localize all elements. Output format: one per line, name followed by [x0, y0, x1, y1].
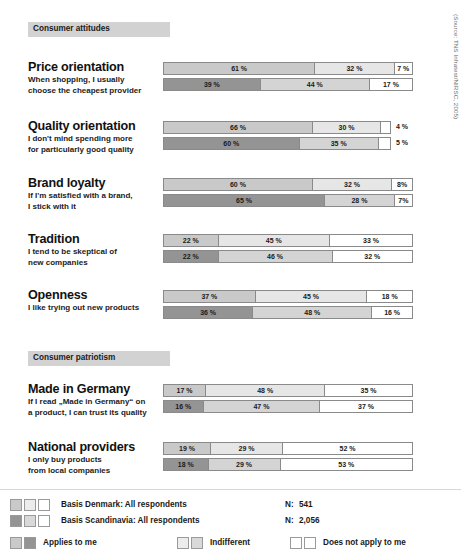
chart-item-subtitle-line: If I'm satisfied with a brand,: [28, 191, 158, 202]
chart-item-title: Price orientation: [28, 60, 124, 74]
bar-segment-label: 60 %: [230, 181, 246, 188]
bar-segment-label: 18 %: [178, 461, 194, 468]
bar-segment: 37 %: [320, 401, 412, 412]
chart-item-subtitle-line: If I read „Made in Germany“ on: [28, 397, 158, 408]
bar-segment-label: 46 %: [267, 253, 283, 260]
bar-segment-label: 65 %: [236, 197, 252, 204]
chart-item-bars: 19 %29 %52 %18 %29 %53 %: [163, 442, 413, 474]
swatch-indifferent-scandinavia-icon: [191, 537, 203, 549]
stacked-bar: 17 %48 %35 %: [163, 384, 413, 397]
chart-bar-row: 17 %48 %35 %: [163, 384, 413, 397]
stacked-bar: 19 %29 %52 %: [163, 442, 413, 455]
bar-segment-label: 30 %: [339, 124, 355, 131]
bar-segment: 29 %: [209, 459, 281, 470]
stacked-bar: 61 %32 %7 %: [163, 62, 413, 75]
bar-segment-label: 48 %: [304, 309, 320, 316]
bar-segment: 45 %: [256, 291, 368, 302]
stacked-bar: 66 %30 %: [163, 121, 391, 134]
chart-bar-row: 19 %29 %52 %: [163, 442, 413, 455]
bar-segment-label: 32 %: [364, 253, 380, 260]
stacked-bar: 18 %29 %53 %: [163, 458, 413, 471]
section-band-label: Consumer attitudes: [33, 24, 110, 33]
stacked-bar: 37 %45 %18 %: [163, 290, 413, 303]
legend-basis-row-denmark: Basis Denmark: All respondents: [10, 498, 187, 511]
n-label: N:: [285, 500, 299, 509]
bar-segment-label: 53 %: [338, 461, 354, 468]
n-denmark: N:541: [285, 500, 313, 509]
bar-segment-label: 22 %: [183, 237, 199, 244]
bar-segment: 28 %: [325, 195, 394, 206]
legend-key-does-not-apply: Does not apply to me: [290, 536, 406, 549]
bar-segment: 32 %: [315, 63, 394, 74]
swatch-not-apply-icon: [38, 515, 50, 527]
chart-item-subtitle-line: I stick with it: [28, 202, 158, 213]
bar-segment-label: 44 %: [307, 81, 323, 88]
chart-item-title: Quality orientation: [28, 119, 135, 133]
bar-segment: 8%: [392, 179, 412, 190]
swatch-not-apply-denmark-icon: [290, 537, 302, 549]
chart-figure: (Source: TNS Infratest/NIRSC, 2005) Cons…: [0, 0, 461, 560]
bar-segment: 7%: [395, 195, 412, 206]
bar-segment: 22 %: [164, 251, 219, 262]
swatch-indifferent-icon: [24, 499, 36, 511]
bar-segment: 16 %: [372, 307, 412, 318]
bar-segment-label: 19 %: [179, 445, 195, 452]
swatch-not-apply-scandinavia-icon: [304, 537, 316, 549]
bar-segment: 7 %: [395, 63, 412, 74]
chart-item-subtitle-line: new companies: [28, 258, 158, 269]
bar-segment-label: 28 %: [351, 197, 367, 204]
bar-segment: 65 %: [164, 195, 325, 206]
bar-segment: 22 %: [164, 235, 219, 246]
bar-segment: 46 %: [219, 251, 333, 262]
bar-segment-label: 47 %: [253, 403, 269, 410]
chart-item-subtitle-line: I tend to be skeptical of: [28, 247, 158, 258]
bar-segment: 36 %: [164, 307, 253, 318]
chart-item-subtitle-line: for particularly good quality: [28, 145, 158, 156]
bar-segment-label: 37 %: [201, 293, 217, 300]
bar-segment-label: 29 %: [236, 461, 252, 468]
legend-basis-row-scandinavia: Basis Scandinavia: All respondents: [10, 514, 199, 527]
legend-key-indifferent: Indifferent: [177, 536, 250, 549]
bar-segment-label: 61 %: [231, 65, 247, 72]
chart-item-subtitle-line: When shopping, I usually: [28, 75, 158, 86]
section-band-consumer-attitudes: Consumer attitudes: [28, 22, 170, 37]
legend-basis-label: Basis Denmark: All respondents: [61, 500, 187, 509]
chart-item-title: Tradition: [28, 232, 79, 246]
chart-bar-row: 60 %35 %5 %: [163, 137, 413, 150]
bar-segment-label: 39 %: [204, 81, 220, 88]
bar-segment: 16 %: [164, 401, 204, 412]
chart-item-bars: 66 %30 %4 %60 %35 %5 %: [163, 121, 413, 153]
chart-item-subtitle-line: I don't mind spending more: [28, 134, 158, 145]
chart-item-bars: 60 %32 %8%65 %28 %7%: [163, 178, 413, 210]
n-value: 541: [299, 500, 313, 509]
chart-bar-row: 36 %48 %16 %: [163, 306, 413, 319]
chart-bar-row: 65 %28 %7%: [163, 194, 413, 207]
bar-segment-label: 66 %: [230, 124, 246, 131]
chart-item-subtitle: If I'm satisfied with a brand,I stick wi…: [28, 191, 158, 212]
chart-item-subtitle: If I read „Made in Germany“ ona product,…: [28, 397, 158, 418]
bar-segment-label: 35 %: [331, 140, 347, 147]
chart-bar-row: 18 %29 %53 %: [163, 458, 413, 471]
bar-segment-label: 17 %: [177, 387, 193, 394]
chart-bar-row: 66 %30 %4 %: [163, 121, 413, 134]
chart-item-bars: 61 %32 %7 %39 %44 %17 %: [163, 62, 413, 94]
bar-segment-label: 17 %: [383, 81, 399, 88]
swatch-indifferent-icon: [24, 515, 36, 527]
bar-segment-label: 36 %: [200, 309, 216, 316]
bar-segment: 30 %: [313, 122, 381, 133]
bar-segment: 66 %: [164, 122, 313, 133]
n-label: N:: [285, 516, 299, 525]
chart-item-subtitle: I only buy productsfrom local companies: [28, 455, 158, 476]
chart-bar-row: 39 %44 %17 %: [163, 78, 413, 91]
bar-segment: [379, 138, 390, 149]
section-band-label: Consumer patriotism: [33, 353, 115, 362]
bar-segment: 39 %: [164, 79, 261, 90]
chart-item-subtitle: I like trying out new products: [28, 303, 158, 314]
legend-key-applies: Applies to me: [10, 536, 97, 549]
bar-segment: 60 %: [164, 138, 300, 149]
bar-segment: 18 %: [164, 459, 209, 470]
legend-basis-label: Basis Scandinavia: All respondents: [61, 516, 199, 525]
bar-segment: 44 %: [261, 79, 370, 90]
bar-segment-label: 37 %: [358, 403, 374, 410]
bar-segment: 48 %: [206, 385, 325, 396]
